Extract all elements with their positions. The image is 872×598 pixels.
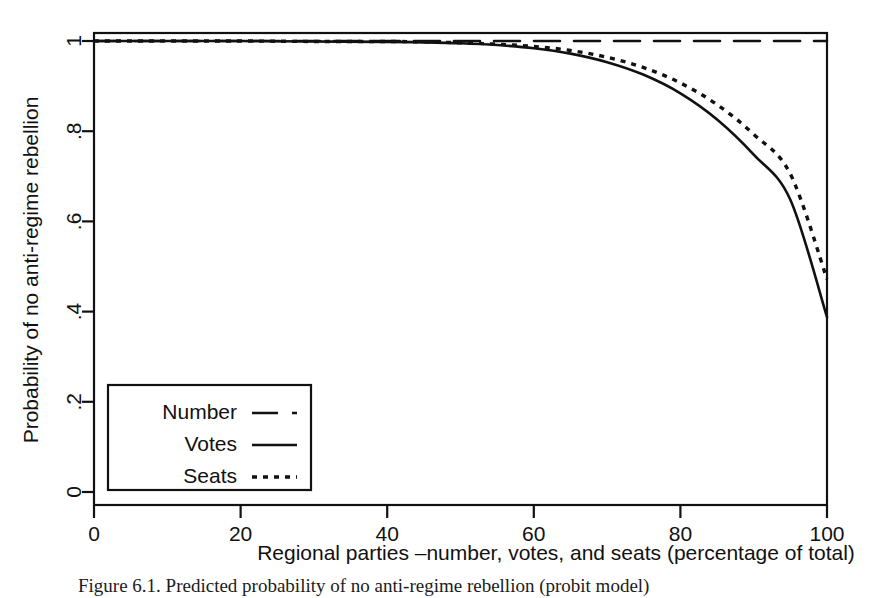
x-tick-label: 0 [88,522,100,545]
legend: NumberVotesSeats [108,385,311,490]
y-axis-ticks: 0.2.4.6.81 [62,35,94,498]
y-tick-label: .2 [62,393,85,411]
x-axis-ticks: 020406080100 [88,505,844,545]
series-line-seats [94,41,827,279]
y-axis-title: Probability of no anti-regime rebellion [19,97,42,444]
chart-canvas: 0.2.4.6.81 020406080100 Regional parties… [0,0,872,598]
x-tick-label: 20 [229,522,252,545]
figure-caption: Figure 6.1. Predicted probability of no … [78,575,868,597]
y-tick-label: 0 [62,486,85,498]
y-tick-label: .8 [62,122,85,140]
y-tick-label: .6 [62,213,85,231]
legend-label-votes: Votes [184,432,237,455]
figure-container: 0.2.4.6.81 020406080100 Regional parties… [0,0,872,598]
data-series-layer [94,41,827,317]
y-tick-label: 1 [62,35,85,47]
series-line-votes [94,41,827,317]
legend-label-number: Number [162,400,237,423]
legend-label-seats: Seats [183,464,237,487]
y-tick-label: .4 [62,303,85,321]
x-axis-title: Regional parties –number, votes, and sea… [257,541,855,564]
